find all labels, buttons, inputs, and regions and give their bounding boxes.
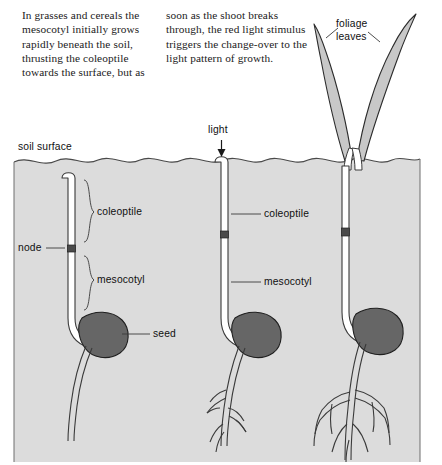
label-coleoptile-stage-2: coleoptile — [264, 208, 309, 219]
stage2-node-band — [221, 231, 229, 238]
label-node-stage-1: node — [18, 242, 42, 253]
diagram-canvas — [0, 0, 442, 465]
label-foliage-leaves-line2: leaves — [336, 31, 367, 42]
stage1-node-band — [68, 245, 76, 252]
light-arrow — [218, 140, 226, 157]
label-mesocotyl-stage-2: mesocotyl — [264, 276, 312, 287]
label-foliage-leaves-line1: foliage — [336, 18, 367, 29]
stage3-node-band — [342, 228, 350, 236]
label-light: light — [208, 124, 228, 135]
label-mesocotyl-stage-1: mesocotyl — [97, 274, 145, 285]
label-coleoptile-stage-1: coleoptile — [97, 206, 142, 217]
label-seed-stage-1: seed — [153, 328, 176, 339]
botany-figure: In grasses and cereals the mesocotyl ini… — [0, 0, 442, 465]
stage3-leaf-leader-right — [368, 32, 380, 42]
label-soil-surface: soil surface — [18, 141, 72, 152]
stage3-leaf-left — [314, 24, 352, 161]
